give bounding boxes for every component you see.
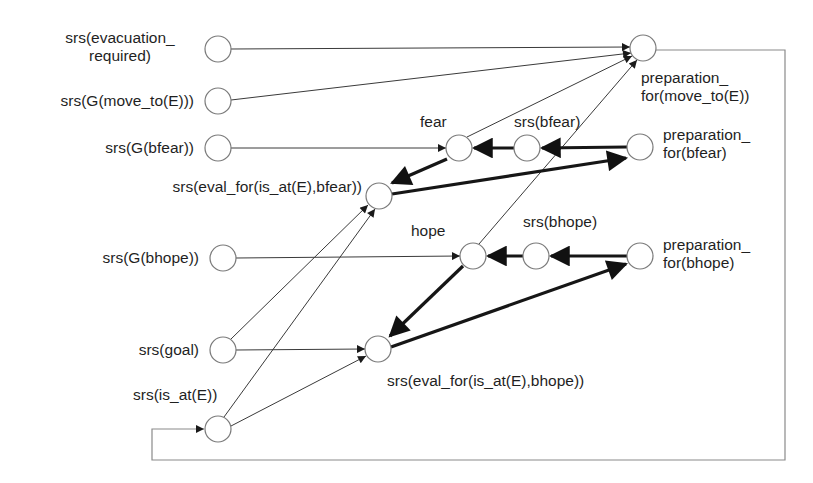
label-eval-for-bfear: srs(eval_for(is_at(E),bfear)) xyxy=(173,178,363,196)
label-srs-bhope: srs(bhope) xyxy=(523,213,597,231)
label-line: preparation_ xyxy=(663,126,750,144)
label-line: for(bfear) xyxy=(663,144,750,162)
label-line: required) xyxy=(44,47,196,65)
edge-evalhope-prephope xyxy=(391,264,626,347)
label-hope: hope xyxy=(411,222,445,240)
label-preparation-for-move-to: preparation_ for(move_to(E)) xyxy=(641,69,750,105)
edge-prepfear-sbfear xyxy=(542,147,627,148)
node-is-at[interactable] xyxy=(205,416,231,442)
edge-fear-evalfear xyxy=(392,159,447,183)
label-g-bhope: srs(G(bhope)) xyxy=(103,249,199,267)
label-goal: srs(goal) xyxy=(139,341,199,359)
edge-goal-evalhope xyxy=(236,349,365,350)
node-g-bfear[interactable] xyxy=(205,135,231,161)
node-fear[interactable] xyxy=(446,135,472,161)
label-is-at: srs(is_at(E)) xyxy=(133,386,217,404)
node-g-move-to[interactable] xyxy=(205,88,231,114)
node-preparation-for-move-to[interactable] xyxy=(630,35,656,61)
label-preparation-for-bhope: preparation_ for(bhope) xyxy=(663,236,750,272)
label-line: srs(evacuation_ xyxy=(44,29,196,47)
label-line: for(move_to(E)) xyxy=(641,87,750,105)
edge-isat-evalfear xyxy=(224,209,375,417)
edge-evalfear-prepfear xyxy=(392,158,626,194)
label-eval-for-bhope: srs(eval_for(is_at(E),bhope)) xyxy=(387,372,584,390)
node-hope[interactable] xyxy=(460,243,486,269)
node-preparation-for-bhope[interactable] xyxy=(627,243,653,269)
edge-gmove-prepmove xyxy=(231,53,631,100)
label-line: preparation_ xyxy=(663,236,750,254)
label-srs-bfear: srs(bfear) xyxy=(514,113,580,131)
label-evacuation-required: srs(evacuation_ required) xyxy=(44,29,196,65)
edge-gbhope-hope xyxy=(236,256,460,258)
label-line: preparation_ xyxy=(641,69,750,87)
label-fear: fear xyxy=(420,113,447,131)
label-g-bfear: srs(G(bfear)) xyxy=(105,139,194,157)
edge-goal-evalfear xyxy=(231,205,368,339)
node-srs-bfear[interactable] xyxy=(514,135,540,161)
node-g-bhope[interactable] xyxy=(210,245,236,271)
label-g-move-to: srs(G(move_to(E))) xyxy=(61,92,194,110)
node-evacuation-required[interactable] xyxy=(205,36,231,62)
label-preparation-for-bfear: preparation_ for(bfear) xyxy=(663,126,750,162)
node-eval-for-bhope[interactable] xyxy=(365,336,391,362)
node-srs-bhope[interactable] xyxy=(523,243,549,269)
edge-isat-evalhope xyxy=(231,356,366,426)
node-eval-for-bfear[interactable] xyxy=(366,183,392,209)
node-preparation-for-bfear[interactable] xyxy=(627,134,653,160)
label-line: for(bhope) xyxy=(663,254,750,272)
edge-evac-prepmove xyxy=(231,47,630,49)
node-goal[interactable] xyxy=(210,337,236,363)
